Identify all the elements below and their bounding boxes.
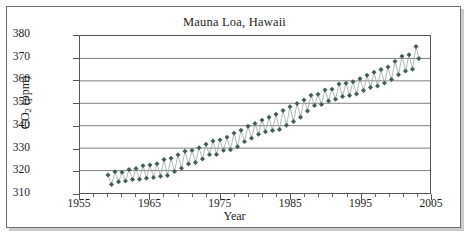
data-point-marker [127, 167, 132, 172]
x-axis-major-tick [431, 194, 432, 200]
data-point-marker [197, 145, 202, 150]
data-point-marker [113, 169, 118, 174]
data-point-marker [326, 99, 331, 104]
data-point-marker [347, 93, 352, 98]
x-axis-minor-tick [121, 194, 122, 197]
data-point-marker [172, 169, 177, 174]
data-point-marker [277, 127, 282, 132]
x-axis-major-tick [290, 194, 291, 200]
y-axis-tick-label: 330 [0, 141, 30, 153]
y-axis-tick-label: 320 [0, 163, 30, 175]
data-point-marker [416, 56, 421, 61]
data-point-marker [274, 112, 279, 117]
y-axis-label-subscript: 2 [23, 108, 33, 112]
data-point-marker [214, 152, 219, 157]
data-point-marker [218, 137, 223, 142]
data-point-marker [382, 81, 387, 86]
data-point-marker [158, 174, 163, 179]
data-point-marker [330, 87, 335, 92]
x-axis-minor-tick [318, 194, 319, 197]
x-axis-minor-tick [163, 194, 164, 197]
data-point-marker [162, 157, 167, 162]
x-axis-major-tick [149, 194, 150, 200]
x-axis-minor-tick [417, 194, 418, 197]
plot-area [79, 35, 431, 194]
x-axis-minor-tick [375, 194, 376, 197]
data-point-marker [414, 44, 419, 49]
data-point-marker [410, 67, 415, 72]
data-point-marker [151, 175, 156, 180]
x-axis-minor-tick [248, 194, 249, 197]
y-axis-tick-label: 310 [0, 186, 30, 198]
chart-title: Mauna Loa, Hawaii [7, 15, 462, 30]
data-point-marker [120, 170, 125, 175]
data-point-marker [340, 94, 345, 99]
x-axis-minor-tick [276, 194, 277, 197]
x-axis-minor-tick [93, 194, 94, 197]
data-point-marker [305, 108, 310, 113]
data-point-marker [375, 84, 380, 89]
data-point-marker [204, 142, 209, 147]
data-point-marker [211, 138, 216, 143]
data-series-co2 [80, 36, 430, 193]
data-point-marker [291, 119, 296, 124]
data-point-marker [288, 104, 293, 109]
data-point-marker [312, 103, 317, 108]
x-axis-minor-tick [389, 194, 390, 197]
y-axis-tick-label: 370 [0, 50, 30, 62]
data-point-marker [319, 102, 324, 107]
data-point-marker [155, 161, 160, 166]
x-axis-minor-tick [304, 194, 305, 197]
data-point-marker [148, 162, 153, 167]
data-point-marker [232, 131, 237, 136]
data-point-marker [130, 177, 135, 182]
data-point-marker [116, 179, 121, 184]
data-point-marker [123, 179, 128, 184]
data-point-marker [358, 76, 363, 81]
x-axis-minor-tick [262, 194, 263, 197]
data-point-marker [281, 108, 286, 113]
data-point-marker [260, 118, 265, 123]
data-point-marker [284, 123, 289, 128]
x-axis-minor-tick [234, 194, 235, 197]
data-point-marker [263, 129, 268, 134]
data-point-marker [228, 147, 233, 152]
data-point-marker [368, 85, 373, 90]
x-axis-minor-tick [135, 194, 136, 197]
data-point-marker [372, 70, 377, 75]
x-axis-major-tick [79, 194, 80, 200]
data-point-marker [200, 156, 205, 161]
data-point-marker [186, 162, 191, 167]
data-point-marker [239, 128, 244, 133]
y-axis-tick-label: 350 [0, 95, 30, 107]
data-point-marker [351, 79, 356, 84]
data-point-marker [270, 128, 275, 133]
data-point-marker [134, 166, 139, 171]
data-point-marker [190, 148, 195, 153]
x-axis-minor-tick [178, 194, 179, 197]
data-point-marker [225, 135, 230, 140]
data-point-marker [267, 115, 272, 120]
x-axis-major-tick [361, 194, 362, 200]
data-point-marker [207, 152, 212, 157]
data-point-marker [183, 149, 188, 154]
data-point-marker [165, 173, 170, 178]
x-axis-minor-tick [403, 194, 404, 197]
data-point-marker [379, 67, 384, 72]
x-axis-minor-tick [107, 194, 108, 197]
data-point-marker [400, 54, 405, 59]
x-axis-minor-tick [206, 194, 207, 197]
data-point-marker [249, 136, 254, 141]
data-point-marker [169, 156, 174, 161]
data-point-marker [141, 163, 146, 168]
y-axis-tick-label: 340 [0, 118, 30, 130]
data-point-marker [193, 160, 198, 165]
y-axis-tick-label: 380 [0, 27, 30, 39]
data-point-marker [176, 152, 181, 157]
data-point-marker [393, 59, 398, 64]
data-point-marker [316, 92, 321, 97]
data-point-marker [109, 182, 114, 187]
data-point-marker [337, 82, 342, 87]
data-point-marker [354, 92, 359, 97]
y-axis-tick-label: 360 [0, 72, 30, 84]
